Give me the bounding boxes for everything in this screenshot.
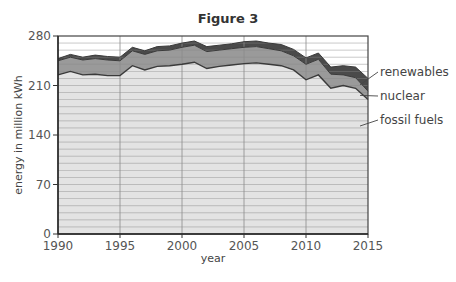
x-tick-label: 2005 [229,239,260,253]
x-tick-label: 2010 [291,239,322,253]
x-tick-label: 2015 [353,239,384,253]
series-label-nuclear: nuclear [380,89,425,103]
series-label-fossil-fuels: fossil fuels [380,113,443,127]
y-axis-label: energy in million kWh [12,75,25,195]
stacked-area-chart: 070140210280199019952000200520102015year… [0,0,456,282]
y-tick-label: 280 [28,29,51,43]
x-tick-label: 2000 [167,239,198,253]
y-tick-label: 210 [28,79,51,93]
area-fossil-fuels [58,62,368,234]
y-tick-label: 140 [28,128,51,142]
x-tick-label: 1995 [105,239,136,253]
x-tick-label: 1990 [43,239,74,253]
leader-line [360,95,378,96]
series-label-renewables: renewables [380,65,449,79]
x-axis-label: year [201,252,226,265]
y-tick-label: 70 [36,178,51,192]
